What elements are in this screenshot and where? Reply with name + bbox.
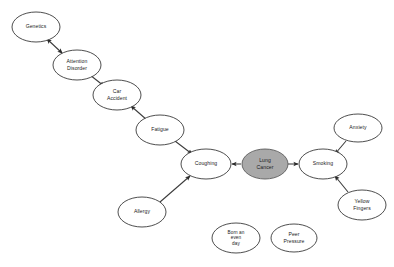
node-label-peer-pressure: Peer	[288, 231, 299, 237]
node-car-accident[interactable]: CarAccident	[93, 80, 141, 110]
node-label-lung-cancer: Lung	[259, 157, 271, 163]
edge-genetics-attention-disorder	[47, 39, 62, 53]
edge-yellow-fingers-smoking	[335, 176, 348, 192]
node-fatigue[interactable]: Fatigue	[136, 115, 184, 145]
edge-fatigue-coughing	[175, 141, 192, 154]
node-label-attention-disorder: Disorder	[67, 65, 87, 71]
node-anxiety[interactable]: Anxiety	[334, 114, 382, 142]
node-label-yellow-fingers: Fingers	[353, 205, 371, 211]
node-label-genetics: Genetics	[26, 23, 47, 29]
node-label-born-an-even-day: Born an	[228, 230, 245, 235]
node-attention-disorder[interactable]: AttentionDisorder	[53, 50, 101, 80]
edge-fatigue-car-accident	[131, 106, 147, 120]
node-label-born-an-even-day: even	[231, 235, 242, 240]
node-label-lung-cancer: Cancer	[257, 164, 274, 170]
node-label-yellow-fingers: Yellow	[354, 198, 369, 204]
node-allergy[interactable]: Allergy	[118, 197, 166, 227]
node-label-allergy: Allergy	[134, 208, 151, 214]
node-peer-pressure[interactable]: PeerPressure	[271, 224, 317, 252]
node-born-an-even-day[interactable]: Born anevenday	[212, 223, 260, 253]
node-label-car-accident: Accident	[107, 95, 128, 101]
node-coughing[interactable]: Coughing	[181, 149, 231, 179]
node-label-smoking: Smoking	[313, 160, 333, 166]
node-lung-cancer[interactable]: LungCancer	[242, 149, 288, 179]
causal-diagram-canvas: GeneticsAttentionDisorderCarAccidentFati…	[0, 0, 394, 267]
node-label-coughing: Coughing	[195, 160, 218, 166]
causal-diagram-svg: GeneticsAttentionDisorderCarAccidentFati…	[0, 0, 394, 267]
node-label-peer-pressure: Pressure	[283, 238, 304, 244]
node-genetics[interactable]: Genetics	[12, 12, 60, 42]
node-smoking[interactable]: Smoking	[299, 149, 347, 179]
node-label-car-accident: Car	[113, 88, 122, 94]
nodes-layer: GeneticsAttentionDisorderCarAccidentFati…	[12, 12, 386, 253]
node-label-born-an-even-day: day	[232, 241, 240, 246]
node-yellow-fingers[interactable]: YellowFingers	[338, 190, 386, 220]
edge-allergy-coughing	[160, 176, 190, 202]
node-label-attention-disorder: Attention	[67, 58, 88, 64]
node-label-anxiety: Anxiety	[349, 124, 367, 130]
node-label-fatigue: Fatigue	[151, 126, 169, 132]
